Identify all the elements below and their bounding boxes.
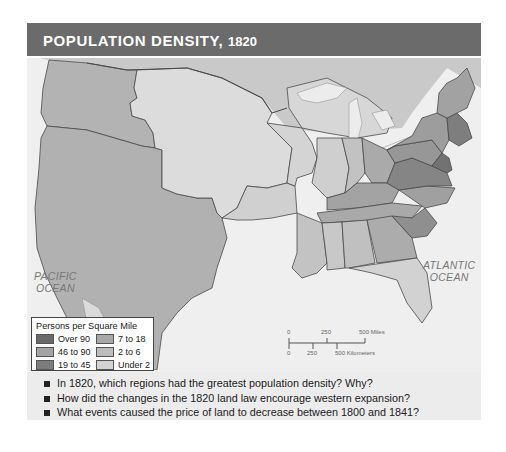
scale-miles-500: 500 Miles	[359, 329, 385, 335]
legend-label: 19 to 45	[58, 360, 91, 370]
legend-swatch-icon	[96, 347, 114, 357]
legend-swatch-icon	[36, 334, 54, 344]
legend-item-7-to-18: 7 to 18	[96, 333, 154, 344]
question-item: What events caused the price of land to …	[43, 405, 481, 420]
scale-km-500: 500 Kilometers	[335, 350, 375, 356]
review-questions: In 1820, which regions had the greatest …	[27, 372, 481, 420]
map-title: POPULATION DENSITY, 1820	[43, 32, 257, 49]
legend-swatch-icon	[36, 360, 54, 370]
atlantic-label-line1: ATLANTIC	[423, 259, 475, 271]
pacific-label-line2: OCEAN	[34, 282, 77, 294]
legend-label: 2 to 6	[118, 347, 141, 357]
legend-item-46-to-90: 46 to 90	[36, 346, 94, 357]
scale-km-250: 250	[307, 350, 317, 356]
legend-item-19-to-45: 19 to 45	[36, 359, 94, 370]
legend-item-over-90: Over 90	[36, 333, 94, 344]
question-item: In 1820, which regions had the greatest …	[43, 376, 481, 391]
scale-miles-250: 250	[321, 329, 331, 335]
scale-bar-graphic	[283, 323, 433, 363]
illinois	[312, 138, 349, 198]
atlantic-ocean-label: ATLANTIC OCEAN	[423, 259, 475, 283]
legend-swatch-icon	[96, 360, 114, 370]
map-title-bar: POPULATION DENSITY, 1820	[27, 23, 481, 58]
legend-item-2-to-6: 2 to 6	[96, 346, 154, 357]
legend-title: Persons per Square Mile	[36, 321, 149, 331]
scale-miles-zero: 0	[287, 329, 290, 335]
legend-item-under-2: Under 2	[96, 359, 154, 370]
pacific-label-line1: PACIFIC	[34, 270, 77, 282]
question-item: How did the changes in the 1820 land law…	[43, 391, 481, 406]
map-legend: Persons per Square Mile Over 90 7 to 18 …	[31, 317, 154, 371]
scale-km-zero: 0	[287, 350, 290, 356]
atlantic-label-line2: OCEAN	[423, 271, 475, 283]
map-title-text: POPULATION DENSITY,	[43, 32, 223, 49]
map-scale-bar: 0 250 500 Miles 0 250 500 Kilometers	[283, 323, 433, 363]
legend-swatch-icon	[36, 347, 54, 357]
map-title-year: 1820	[228, 34, 257, 49]
legend-label: Over 90	[58, 334, 90, 344]
legend-label: Under 2	[118, 360, 150, 370]
legend-grid: Over 90 7 to 18 46 to 90 2 to 6 19 to 45…	[36, 333, 149, 370]
pacific-ocean-label: PACIFIC OCEAN	[34, 270, 77, 294]
legend-label: 7 to 18	[118, 334, 146, 344]
legend-label: 46 to 90	[58, 347, 91, 357]
legend-swatch-icon	[96, 334, 114, 344]
